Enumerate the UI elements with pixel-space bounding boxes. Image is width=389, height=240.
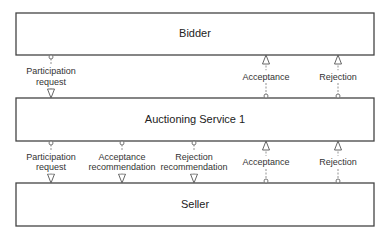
arrow-down-icon	[48, 174, 55, 183]
connector-label-line: Acceptance	[242, 157, 289, 167]
arrow-down-icon	[191, 174, 198, 183]
connector-label: Rejection	[319, 72, 357, 82]
connector-label-line: request	[36, 162, 67, 172]
source-port-icon	[49, 55, 53, 59]
bidder-box: Bidder	[16, 13, 374, 55]
connector-label-line: Rejection	[319, 157, 357, 167]
seller-label: Seller	[181, 198, 209, 210]
source-port-icon	[49, 141, 53, 145]
arrow-up-icon	[263, 141, 270, 150]
source-port-icon	[264, 179, 268, 183]
bidder-label: Bidder	[179, 27, 211, 39]
source-port-icon	[336, 94, 340, 98]
connector-label: Acceptance	[242, 157, 289, 167]
source-port-icon	[120, 141, 124, 145]
connector-label-line: Participation	[26, 66, 76, 76]
arrow-down-icon	[48, 89, 55, 98]
connector-bottom-3: Acceptance	[239, 141, 293, 183]
connector-label: Acceptance	[242, 72, 289, 82]
service-interaction-diagram: Bidder Auctioning Service 1 Seller Parti…	[0, 0, 389, 240]
connector-bottom-2: Rejectionrecommendation	[157, 141, 231, 183]
connector-label: Rejection	[319, 157, 357, 167]
auctioning-service-box: Auctioning Service 1	[16, 98, 374, 141]
connector-top-2: Rejection	[314, 55, 363, 98]
connector-top-0: Participationrequest	[17, 55, 86, 98]
connector-label-line: Rejection	[319, 72, 357, 82]
connector-label-line: Rejection	[175, 152, 213, 162]
connector-label-line: Acceptance	[98, 152, 145, 162]
connector-label-line: recommendation	[160, 162, 227, 172]
connector-label-line: recommendation	[88, 162, 155, 172]
auctioning-service-label: Auctioning Service 1	[145, 113, 245, 125]
connector-top-1: Acceptance	[239, 55, 293, 98]
arrow-up-icon	[263, 55, 270, 64]
connector-label: Acceptancerecommendation	[88, 152, 155, 173]
source-port-icon	[192, 141, 196, 145]
connector-bottom-4: Rejection	[314, 141, 363, 183]
arrow-up-icon	[335, 55, 342, 64]
connector-bottom-1: Acceptancerecommendation	[85, 141, 159, 183]
seller-box: Seller	[16, 183, 374, 226]
connector-label-line: Acceptance	[242, 72, 289, 82]
connector-bottom-0: Participationrequest	[17, 141, 86, 183]
source-port-icon	[264, 94, 268, 98]
connector-label-line: Participation	[26, 152, 76, 162]
arrow-down-icon	[119, 174, 126, 183]
connector-label-line: request	[36, 77, 67, 87]
arrow-up-icon	[335, 141, 342, 150]
source-port-icon	[336, 179, 340, 183]
